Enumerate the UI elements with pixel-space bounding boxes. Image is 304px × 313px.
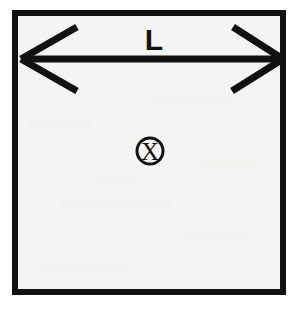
figure-canvas: L X — [0, 0, 304, 313]
figure-container: L X — [0, 0, 304, 313]
field-symbol-glyph: X — [141, 138, 159, 165]
dimension-label-L: L — [145, 23, 163, 56]
